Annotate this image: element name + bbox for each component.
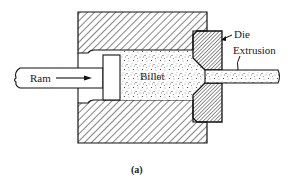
ram-label: Ram bbox=[30, 72, 51, 84]
container-top-wall bbox=[78, 12, 207, 53]
extrusion-leader bbox=[237, 56, 240, 70]
extrusion-diagram: Ram Billet Die Extrusion (a) bbox=[0, 0, 293, 186]
container-bottom-wall bbox=[78, 100, 207, 143]
ram-head bbox=[103, 55, 120, 100]
extrusion-label: Extrusion bbox=[233, 44, 276, 56]
die-label: Die bbox=[234, 28, 250, 40]
extrusion bbox=[205, 70, 280, 83]
caption: (a) bbox=[131, 164, 143, 176]
billet-label: Billet bbox=[140, 70, 164, 82]
